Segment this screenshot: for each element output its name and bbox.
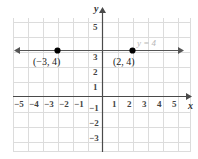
y-tick-label: 3 bbox=[93, 53, 98, 62]
y-axis bbox=[99, 7, 106, 152]
x-axis-label: x bbox=[188, 101, 193, 111]
point-marker-2-4 bbox=[129, 47, 135, 53]
graph-canvas bbox=[0, 0, 198, 159]
x-tick-label: −3 bbox=[44, 100, 54, 109]
y-tick-label: 1 bbox=[93, 83, 98, 92]
coordinate-graph: −5 −4 −3 −2 −1 1 2 3 4 5 5 3 2 1 −1 −2 −… bbox=[0, 0, 198, 159]
x-tick-label: −2 bbox=[59, 100, 69, 109]
x-tick-label: 1 bbox=[112, 100, 117, 109]
y-tick-label: 5 bbox=[93, 23, 98, 32]
y-tick-label: −3 bbox=[89, 134, 99, 143]
y-tick-label: −2 bbox=[89, 119, 99, 128]
point-label-2-4: (2, 4) bbox=[113, 57, 135, 67]
x-tick-label: −5 bbox=[14, 100, 24, 109]
point-label-neg3-4: (−3, 4) bbox=[33, 57, 60, 67]
y-axis-label: y bbox=[94, 4, 98, 14]
line-equation-label: y = 4 bbox=[137, 39, 156, 48]
point-marker-neg3-4 bbox=[54, 47, 60, 53]
y-tick-label: −1 bbox=[89, 104, 99, 113]
y-tick-label: 2 bbox=[93, 68, 98, 77]
x-tick-label: −4 bbox=[29, 100, 39, 109]
x-tick-label: 3 bbox=[142, 100, 147, 109]
x-tick-label: 4 bbox=[157, 100, 162, 109]
x-axis-arrowhead bbox=[186, 93, 192, 100]
x-tick-label: 2 bbox=[127, 100, 132, 109]
y-axis-arrowhead bbox=[99, 7, 106, 13]
x-tick-label: −1 bbox=[74, 100, 84, 109]
x-tick-label: 5 bbox=[172, 100, 177, 109]
